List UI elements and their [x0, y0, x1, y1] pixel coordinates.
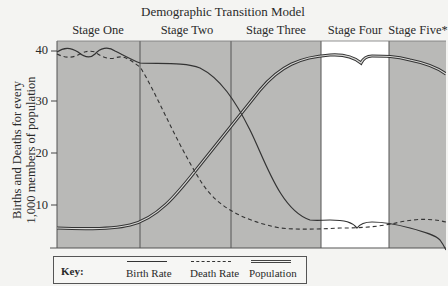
stage-four-region: [321, 41, 389, 248]
legend-death-rate: Death Rate: [190, 267, 239, 279]
death-rate-swatch: [191, 261, 231, 262]
stage-one-region: [57, 41, 140, 248]
chart-legend: Key: Birth Rate Death Rate Population: [53, 256, 307, 284]
legend-population: Population: [249, 267, 297, 279]
legend-birth-rate: Birth Rate: [126, 267, 172, 279]
legend-title: Key:: [61, 265, 84, 277]
birth-rate-swatch: [127, 261, 167, 262]
y-ticks: [51, 51, 57, 205]
stage-five-region: [389, 41, 446, 248]
population-swatch: [251, 260, 291, 263]
